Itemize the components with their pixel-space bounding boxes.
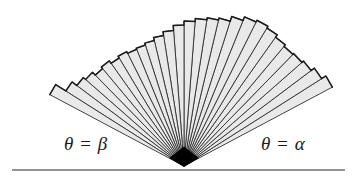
angle-label-beta: θ = β xyxy=(64,134,108,153)
angle-label-alpha: θ = α xyxy=(261,134,305,153)
figure-container: θ = β θ = α xyxy=(0,0,358,179)
